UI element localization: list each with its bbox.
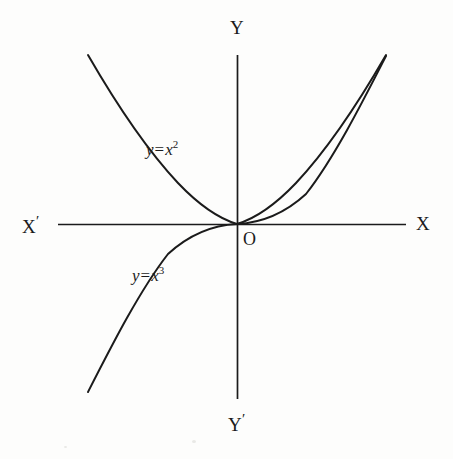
origin-label: O xyxy=(243,230,256,248)
curve-label-sq-y: y xyxy=(146,140,154,159)
scan-speckle xyxy=(64,446,67,448)
curve-label-cube-base: x xyxy=(151,266,159,285)
curve-label-sq-equals: = xyxy=(155,140,165,159)
x-negative-axis-prime: ′ xyxy=(36,213,39,229)
x-axis-label: X xyxy=(416,214,430,233)
curve-label-cube-exponent: 3 xyxy=(159,264,165,276)
y-axis-label-text: Y xyxy=(230,17,244,38)
graph-figure: Y Y′ X X′ O y=x2 y=x3 xyxy=(0,0,453,459)
graph-canvas xyxy=(0,0,453,459)
x-negative-axis-label: X′ xyxy=(22,214,39,236)
curve-label-cube-y: y xyxy=(132,266,140,285)
curve-label-sq-base: x xyxy=(165,140,173,159)
y-axis-label: Y xyxy=(230,18,244,37)
curve-label-y-equals-x-squared: y=x2 xyxy=(146,139,178,158)
y-negative-axis-label-text: Y xyxy=(228,414,242,435)
x-negative-axis-label-text: X xyxy=(22,216,36,237)
curve-label-sq-exponent: 2 xyxy=(173,138,179,150)
x-axis-label-text: X xyxy=(416,213,430,234)
y-negative-axis-label: Y′ xyxy=(228,412,245,434)
curve-label-y-equals-x-cubed: y=x3 xyxy=(132,265,164,284)
scan-speckle xyxy=(192,440,196,443)
curve-label-cube-equals: = xyxy=(141,266,151,285)
y-negative-axis-prime: ′ xyxy=(242,411,245,427)
